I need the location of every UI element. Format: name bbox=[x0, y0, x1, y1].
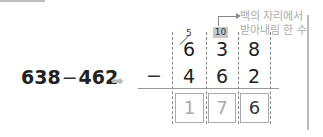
top-digit-tens: 3 bbox=[207, 38, 237, 60]
annotation-pointer-stem bbox=[218, 16, 219, 26]
bottom-digit-hundreds: 4 bbox=[174, 65, 204, 87]
right-arrow-icon: ➡ bbox=[111, 72, 124, 90]
annotation-line-2: 받아내림 한 수 bbox=[240, 24, 307, 38]
result-box-hundreds[interactable]: 1 bbox=[175, 93, 204, 123]
annotation-line-1: 백의 자리에서 bbox=[240, 10, 307, 24]
borrow-tens-box: 10 bbox=[213, 27, 228, 38]
sum-line bbox=[138, 88, 279, 89]
right-divider bbox=[307, 15, 309, 130]
result-box-ones[interactable]: 6 bbox=[240, 93, 269, 123]
top-digit-hundreds: 6 bbox=[174, 38, 204, 60]
bottom-digit-ones: 2 bbox=[239, 65, 269, 87]
expression: 638−462 bbox=[21, 66, 118, 88]
result-box-tens[interactable]: 7 bbox=[208, 93, 236, 123]
top-digit-ones: 8 bbox=[239, 38, 269, 60]
top-divider bbox=[0, 0, 45, 2]
vertical-minus-sign: − bbox=[146, 64, 162, 86]
column-guide bbox=[270, 32, 271, 124]
minuend: 638 bbox=[21, 66, 61, 88]
column-guide bbox=[172, 32, 173, 124]
annotation-text: 백의 자리에서 받아내림 한 수 bbox=[240, 10, 307, 38]
annotation-pointer-line bbox=[218, 16, 238, 17]
minus-operator: − bbox=[62, 66, 78, 88]
bottom-digit-tens: 6 bbox=[207, 65, 237, 87]
